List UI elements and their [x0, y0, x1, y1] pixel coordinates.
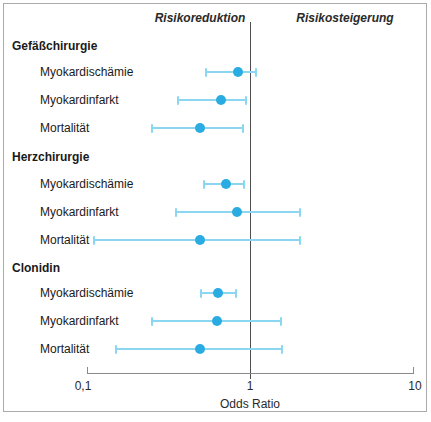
odds-ratio-marker [232, 207, 242, 217]
odds-ratio-marker [221, 179, 231, 189]
odds-ratio-marker [213, 288, 223, 298]
row-label: Mortalität [40, 233, 89, 247]
x-axis-tick-label-1: 1 [247, 379, 254, 393]
confidence-interval-line [206, 71, 256, 73]
ci-cap-low [203, 180, 205, 189]
ci-cap-low [175, 208, 177, 217]
ci-cap-low [151, 124, 153, 133]
ci-cap-low [115, 345, 117, 354]
x-axis-tick-left [87, 367, 88, 373]
forest-plot-figure: Risikoreduktion Risikosteigerung Gefäßch… [0, 0, 431, 422]
group-label: Gefäßchirurgie [12, 39, 97, 53]
row-label: Myokardischämie [40, 286, 133, 300]
odds-ratio-marker [216, 95, 226, 105]
ci-cap-high [299, 236, 301, 245]
risk-increase-label: Risikosteigerung [296, 11, 393, 25]
confidence-interval-line [178, 99, 246, 101]
ci-cap-low [151, 317, 153, 326]
odds-ratio-marker [195, 123, 205, 133]
x-axis-tick-label-0-1: 0,1 [75, 379, 92, 393]
ci-cap-high [243, 180, 245, 189]
x-axis-line [87, 373, 414, 374]
odds-ratio-marker [233, 67, 243, 77]
row-label: Mortalität [40, 121, 89, 135]
ci-cap-high [245, 96, 247, 105]
ci-cap-high [235, 289, 237, 298]
group-label: Clonidin [12, 261, 60, 275]
odds-ratio-marker [212, 316, 222, 326]
ci-cap-low [200, 289, 202, 298]
reference-line-or-1 [250, 22, 251, 379]
group-label: Herzchirurgie [12, 150, 89, 164]
risk-reduction-label: Risikoreduktion [155, 11, 246, 25]
row-label: Myokardischämie [40, 177, 133, 191]
ci-cap-high [242, 124, 244, 133]
ci-cap-low [93, 236, 95, 245]
row-label: Mortalität [40, 342, 89, 356]
row-label: Myokardischämie [40, 65, 133, 79]
row-label: Myokardinfarkt [40, 93, 119, 107]
x-axis-tick-label-10: 10 [408, 379, 421, 393]
row-label: Myokardinfarkt [40, 205, 119, 219]
ci-cap-high [281, 345, 283, 354]
odds-ratio-marker [195, 344, 205, 354]
odds-ratio-marker [195, 235, 205, 245]
x-axis-title: Odds Ratio [220, 397, 280, 411]
ci-cap-low [177, 96, 179, 105]
ci-cap-high [280, 317, 282, 326]
ci-cap-high [299, 208, 301, 217]
ci-cap-high [255, 68, 257, 77]
row-label: Myokardinfarkt [40, 314, 119, 328]
x-axis-tick-right [413, 367, 414, 373]
